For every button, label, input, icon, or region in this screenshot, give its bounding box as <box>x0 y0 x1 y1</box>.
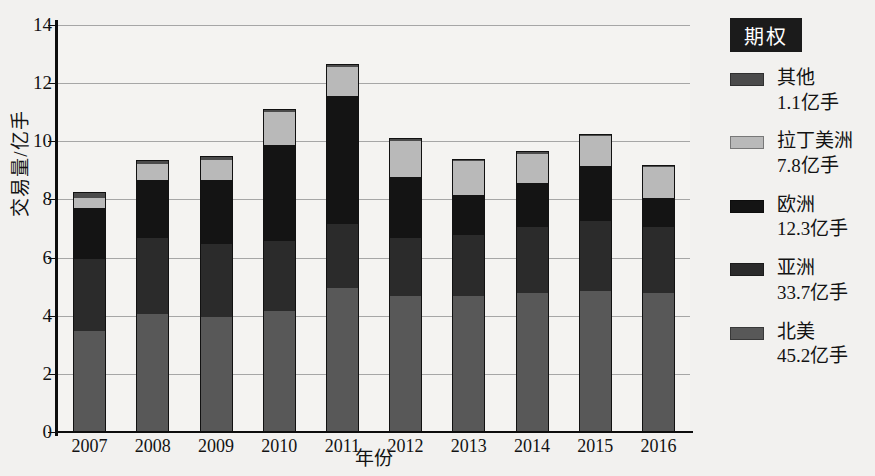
bar-segment-亚洲 <box>390 238 421 296</box>
legend-entry-北美[interactable]: 北美45.2亿手 <box>700 320 875 369</box>
y-tick-label: 2 <box>8 364 52 383</box>
bar-segment-拉丁美洲 <box>643 167 674 198</box>
bar-segment-北美 <box>390 296 421 433</box>
bar-segment-欧洲 <box>137 180 168 238</box>
bar-segment-亚洲 <box>517 227 548 294</box>
bar-2009 <box>200 156 233 432</box>
bar-segment-拉丁美洲 <box>517 154 548 183</box>
bar-segment-拉丁美洲 <box>264 112 295 145</box>
y-tick-mark <box>48 25 55 26</box>
bar-segment-亚洲 <box>74 259 105 332</box>
bar-segment-亚洲 <box>201 244 232 317</box>
bar-segment-欧洲 <box>517 183 548 227</box>
legend-text-亚洲: 亚洲33.7亿手 <box>777 256 848 305</box>
bar-segment-欧洲 <box>580 166 611 221</box>
bar-segment-欧洲 <box>74 208 105 259</box>
y-tick-mark <box>48 258 55 259</box>
gridline <box>58 25 690 26</box>
bar-segment-亚洲 <box>137 238 168 314</box>
legend-swatch-欧洲 <box>730 200 764 213</box>
bar-segment-欧洲 <box>264 145 295 241</box>
bar-2012 <box>389 138 422 432</box>
legend-label-其他: 其他 <box>777 66 839 91</box>
bar-segment-拉丁美洲 <box>453 161 484 194</box>
legend-entry-其他[interactable]: 其他1.1亿手 <box>700 66 875 115</box>
y-axis-title: 交易量/亿手 <box>5 84 32 244</box>
y-axis-line <box>55 20 58 436</box>
legend: 期权 其他1.1亿手拉丁美洲7.8亿手欧洲12.3亿手亚洲33.7亿手北美45.… <box>700 18 875 369</box>
bar-segment-北美 <box>453 296 484 433</box>
plot-area <box>58 25 690 432</box>
legend-swatch-其他 <box>730 73 764 86</box>
y-tick-label: 14 <box>8 15 52 34</box>
legend-text-拉丁美洲: 拉丁美洲7.8亿手 <box>777 129 853 178</box>
bar-segment-北美 <box>517 293 548 433</box>
bar-segment-亚洲 <box>580 221 611 291</box>
legend-label-亚洲: 亚洲 <box>777 256 848 281</box>
bar-segment-北美 <box>327 288 358 433</box>
bar-segment-北美 <box>580 291 611 433</box>
stacked-bar-chart: 02468101214 交易量/亿手 200720082009201020112… <box>0 0 875 476</box>
bar-segment-拉丁美洲 <box>201 160 232 180</box>
bar-segment-拉丁美洲 <box>390 141 421 177</box>
legend-value-拉丁美洲: 7.8亿手 <box>777 154 853 179</box>
y-tick-label: 0 <box>8 422 52 441</box>
legend-entry-欧洲[interactable]: 欧洲12.3亿手 <box>700 193 875 242</box>
bar-segment-拉丁美洲 <box>74 198 105 208</box>
y-tick-mark <box>48 141 55 142</box>
bar-segment-北美 <box>74 331 105 433</box>
y-tick-mark <box>48 83 55 84</box>
bar-segment-北美 <box>201 317 232 433</box>
bar-segment-亚洲 <box>643 227 674 294</box>
bar-segment-亚洲 <box>264 241 295 311</box>
bar-segment-北美 <box>264 311 295 433</box>
legend-value-亚洲: 33.7亿手 <box>777 281 848 306</box>
legend-entry-亚洲[interactable]: 亚洲33.7亿手 <box>700 256 875 305</box>
y-tick-mark <box>48 199 55 200</box>
bar-segment-亚洲 <box>327 224 358 288</box>
bar-segment-北美 <box>137 314 168 433</box>
legend-value-欧洲: 12.3亿手 <box>777 217 848 242</box>
bar-segment-欧洲 <box>327 96 358 224</box>
gridline <box>58 83 690 84</box>
legend-swatch-拉丁美洲 <box>730 136 764 149</box>
y-tick-mark <box>48 374 55 375</box>
bar-2011 <box>326 64 359 432</box>
bar-segment-亚洲 <box>453 235 484 296</box>
bar-segment-拉丁美洲 <box>580 136 611 165</box>
legend-swatch-北美 <box>730 327 764 340</box>
legend-text-其他: 其他1.1亿手 <box>777 66 839 115</box>
bar-2007 <box>73 192 106 432</box>
bar-segment-欧洲 <box>390 177 421 238</box>
bar-segment-拉丁美洲 <box>327 67 358 96</box>
x-axis-line <box>55 431 693 433</box>
y-tick-mark <box>48 432 55 433</box>
legend-label-拉丁美洲: 拉丁美洲 <box>777 129 853 154</box>
bar-2013 <box>452 159 485 432</box>
legend-label-北美: 北美 <box>777 320 848 345</box>
bar-2010 <box>263 109 296 432</box>
bar-segment-欧洲 <box>643 198 674 227</box>
legend-text-欧洲: 欧洲12.3亿手 <box>777 193 848 242</box>
y-tick-mark <box>48 316 55 317</box>
bar-2015 <box>579 134 612 432</box>
bar-2008 <box>136 160 169 432</box>
legend-title: 期权 <box>730 18 802 52</box>
legend-label-欧洲: 欧洲 <box>777 193 848 218</box>
y-tick-label: 4 <box>8 306 52 325</box>
bar-2016 <box>642 165 675 432</box>
legend-entry-拉丁美洲[interactable]: 拉丁美洲7.8亿手 <box>700 129 875 178</box>
y-tick-label: 6 <box>8 248 52 267</box>
legend-value-其他: 1.1亿手 <box>777 91 839 116</box>
bar-segment-欧洲 <box>201 180 232 244</box>
legend-value-北美: 45.2亿手 <box>777 344 848 369</box>
legend-entries: 其他1.1亿手拉丁美洲7.8亿手欧洲12.3亿手亚洲33.7亿手北美45.2亿手 <box>700 66 875 369</box>
bar-segment-北美 <box>643 293 674 433</box>
x-axis-title: 年份 <box>58 443 690 470</box>
bar-segment-欧洲 <box>453 195 484 236</box>
legend-swatch-亚洲 <box>730 263 764 276</box>
bar-2014 <box>516 151 549 432</box>
bar-segment-拉丁美洲 <box>137 164 168 180</box>
legend-text-北美: 北美45.2亿手 <box>777 320 848 369</box>
